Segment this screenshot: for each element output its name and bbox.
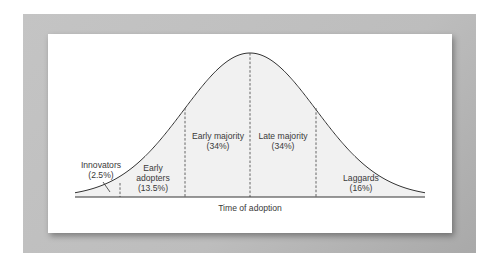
laggards-label: Laggards	[343, 173, 379, 183]
early-majority-percent: (34%)	[207, 141, 230, 151]
late-majority-label: Late majority	[258, 131, 308, 141]
adoption-curve-diagram: Innovators (2.5%) Early adopters (13.5%)…	[0, 0, 493, 268]
laggards-percent: (16%)	[350, 183, 373, 193]
x-axis-label: Time of adoption	[218, 203, 282, 213]
early-adopters-percent: (13.5%)	[138, 183, 168, 193]
innovators-label: Innovators	[81, 160, 121, 170]
early-adopters-label-line1: Early	[143, 163, 163, 173]
early-majority-label: Early majority	[192, 131, 245, 141]
early-adopters-label-line2: adopters	[136, 173, 169, 183]
innovators-percent: (2.5%)	[88, 170, 113, 180]
late-majority-percent: (34%)	[272, 141, 295, 151]
